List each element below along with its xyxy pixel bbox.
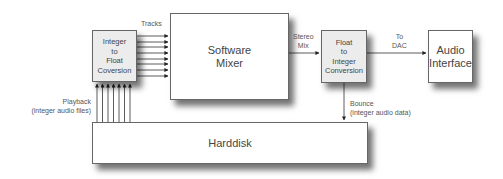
node-label: Harddisk [208,137,251,150]
harddisk-node: Harddisk [92,122,368,164]
node-label: Integer to Float Coversion [98,37,132,75]
playback-label: Playback (integer audio files) [26,97,91,115]
tracks-label: Tracks [141,19,162,28]
float-to-integer-node: Float to Integer Conversion [321,30,367,83]
to-dac-label: To DAC [392,32,407,50]
node-label: Audio Interface [429,44,472,70]
software-mixer-node: Software Mixer [170,13,289,100]
bounce-label: Bounce (integer audio data) [350,99,411,117]
playback-arrows [97,84,130,122]
node-label: Float to Integer Conversion [325,38,363,76]
stereo-mix-label: Stereo Mix [293,32,314,50]
audio-interface-node: Audio Interface [428,30,473,83]
integer-to-float-node: Integer to Float Coversion [92,30,137,82]
tracks-arrows [136,36,168,76]
node-label: Software Mixer [208,44,251,70]
